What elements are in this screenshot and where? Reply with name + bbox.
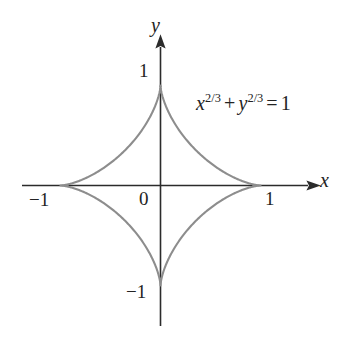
x-axis-label: x — [320, 170, 329, 190]
equation-base-x: x — [196, 92, 205, 114]
y-tick-label-negative-one: −1 — [126, 282, 146, 301]
y-axis-label: y — [151, 15, 160, 35]
equation-operator: + — [221, 92, 238, 114]
equation-exponent-x: 2/3 — [205, 91, 221, 105]
y-tick-label-positive-one: 1 — [139, 61, 149, 80]
x-tick-label-negative-one: −1 — [29, 190, 49, 209]
astroid-figure: 1 −1 0 1 −1 y x x2/3+y2/3=1 — [0, 0, 350, 337]
equation-exponent-y: 2/3 — [247, 91, 263, 105]
plot-canvas — [0, 0, 350, 337]
equation-equals-sign: = — [263, 92, 280, 114]
equation-right-hand-side: 1 — [281, 92, 291, 114]
x-tick-label-positive-one: 1 — [265, 189, 275, 208]
curve-equation-annotation: x2/3+y2/3=1 — [196, 92, 291, 115]
origin-label: 0 — [139, 189, 149, 208]
